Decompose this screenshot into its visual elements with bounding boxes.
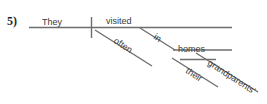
- label-subject-they: They: [42, 17, 62, 27]
- sentence-diagram-lines: [0, 0, 267, 104]
- label-verb-visited: visited: [106, 16, 132, 26]
- sentence-diagram-screenshot: 5) They visited often in homes their gra…: [0, 0, 267, 104]
- label-object-homes: homes: [178, 44, 205, 54]
